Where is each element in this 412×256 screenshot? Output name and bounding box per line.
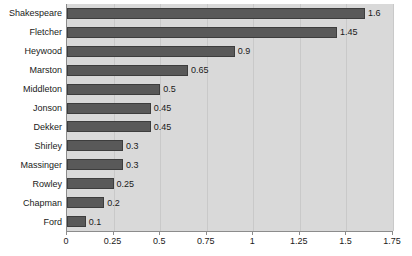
bar-value-label: 1.45 — [340, 28, 358, 37]
x-tick-mark — [299, 232, 300, 235]
bar-value-label: 0.25 — [117, 179, 135, 188]
bar-value-label: 0.1 — [89, 217, 102, 226]
category-axis-labels: ShakespeareFletcherHeywoodMarstonMiddlet… — [0, 4, 62, 231]
bar[interactable] — [67, 27, 337, 38]
bar[interactable] — [67, 103, 151, 114]
x-tick-label: 1 — [250, 237, 255, 246]
x-tick-label: 1.25 — [290, 237, 308, 246]
bar-value-label: 0.9 — [238, 47, 251, 56]
x-tick-mark — [159, 232, 160, 235]
category-label-heywood: Heywood — [0, 47, 62, 56]
x-tick-mark — [345, 232, 346, 235]
bar-row[interactable]: 0.1 — [67, 216, 393, 227]
bar[interactable] — [67, 84, 160, 95]
x-tick-mark — [206, 232, 207, 235]
bar-value-label: 0.2 — [107, 198, 120, 207]
bar-value-label: 0.65 — [191, 66, 209, 75]
category-label-massinger: Massinger — [0, 160, 62, 169]
bar-value-label: 0.45 — [154, 104, 172, 113]
category-label-chapman: Chapman — [0, 198, 62, 207]
bar-row[interactable]: 0.2 — [67, 197, 393, 208]
x-tick-mark — [66, 232, 67, 235]
category-label-rowley: Rowley — [0, 179, 62, 188]
x-tick-label: 1.75 — [383, 237, 401, 246]
category-label-jonson: Jonson — [0, 104, 62, 113]
bar[interactable] — [67, 197, 104, 208]
category-label-marston: Marston — [0, 66, 62, 75]
bar-row[interactable]: 1.6 — [67, 8, 393, 19]
bar-row[interactable]: 0.5 — [67, 84, 393, 95]
category-label-shirley: Shirley — [0, 141, 62, 150]
gridline — [393, 4, 394, 231]
bar-row[interactable]: 1.45 — [67, 27, 393, 38]
bar[interactable] — [67, 178, 114, 189]
x-tick-label: 0.5 — [153, 237, 166, 246]
x-tick-mark — [113, 232, 114, 235]
category-label-dekker: Dekker — [0, 122, 62, 131]
bar-row[interactable]: 0.45 — [67, 103, 393, 114]
bar-chart: ShakespeareFletcherHeywoodMarstonMiddlet… — [0, 0, 412, 256]
x-tick-label: 0.25 — [104, 237, 122, 246]
bar-value-label: 0.3 — [126, 160, 139, 169]
bar-row[interactable]: 0.65 — [67, 65, 393, 76]
x-tick-label: 0.75 — [197, 237, 215, 246]
bar[interactable] — [67, 121, 151, 132]
bar-row[interactable]: 0.3 — [67, 159, 393, 170]
bar[interactable] — [67, 65, 188, 76]
category-label-fletcher: Fletcher — [0, 28, 62, 37]
bar[interactable] — [67, 159, 123, 170]
bar-value-label: 0.3 — [126, 141, 139, 150]
x-tick-mark — [252, 232, 253, 235]
x-axis: 00.250.50.7511.251.51.75 — [66, 232, 393, 256]
bar[interactable] — [67, 46, 235, 57]
bars-layer: 1.61.450.90.650.50.450.450.30.30.250.20.… — [67, 4, 393, 231]
bar-value-label: 1.6 — [368, 9, 381, 18]
category-label-ford: Ford — [0, 217, 62, 226]
bar-value-label: 0.5 — [163, 85, 176, 94]
bar-row[interactable]: 0.45 — [67, 121, 393, 132]
x-tick-label: 1.5 — [339, 237, 352, 246]
x-tick-mark — [392, 232, 393, 235]
bar[interactable] — [67, 216, 86, 227]
bar-row[interactable]: 0.3 — [67, 140, 393, 151]
plot-area: 1.61.450.90.650.50.450.450.30.30.250.20.… — [66, 4, 393, 232]
bar-row[interactable]: 0.9 — [67, 46, 393, 57]
category-label-middleton: Middleton — [0, 85, 62, 94]
bar-row[interactable]: 0.25 — [67, 178, 393, 189]
bar[interactable] — [67, 140, 123, 151]
category-label-shakespeare: Shakespeare — [0, 9, 62, 18]
bar-value-label: 0.45 — [154, 122, 172, 131]
bar[interactable] — [67, 8, 365, 19]
x-tick-label: 0 — [63, 237, 68, 246]
